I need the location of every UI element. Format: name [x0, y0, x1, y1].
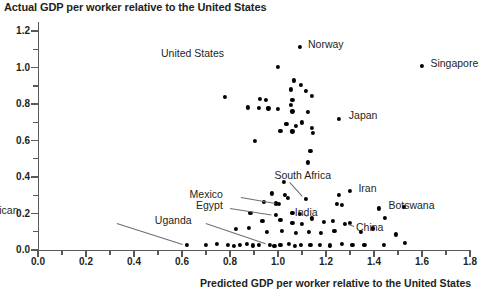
data-point — [245, 242, 249, 246]
data-point — [308, 148, 312, 152]
point-label: United States — [161, 47, 224, 59]
data-point — [292, 78, 296, 82]
leader-line — [349, 224, 355, 227]
leader-line — [289, 182, 303, 197]
data-point — [328, 243, 332, 247]
y-tick-minor — [33, 49, 38, 50]
x-tick-label: 0.8 — [210, 256, 250, 267]
data-point — [264, 97, 268, 101]
y-tick-label: 1.0 — [0, 62, 30, 73]
point-label: Japan — [349, 109, 378, 121]
data-point — [270, 191, 274, 195]
data-point — [226, 243, 230, 247]
data-point — [420, 64, 424, 68]
data-point — [234, 227, 238, 231]
data-point — [272, 244, 276, 248]
data-point — [343, 221, 347, 225]
leader-line — [117, 223, 183, 245]
data-point — [276, 107, 280, 111]
point-label: Botswana — [388, 199, 434, 211]
data-point — [304, 197, 308, 201]
y-tick-major — [31, 67, 38, 68]
data-point — [298, 45, 302, 49]
y-tick-minor — [33, 122, 38, 123]
point-label: Central African Republic — [0, 204, 42, 230]
x-tick-label: 0.2 — [66, 256, 106, 267]
x-tick-minor — [109, 250, 110, 255]
x-tick-label: 1.6 — [402, 256, 442, 267]
point-label: Egypt — [196, 199, 223, 211]
data-point — [258, 97, 262, 101]
point-label: Iran — [358, 182, 376, 194]
data-point — [300, 221, 304, 225]
data-point — [277, 202, 281, 206]
x-tick-minor — [301, 250, 302, 255]
data-point — [348, 189, 352, 193]
data-point — [362, 242, 366, 246]
point-label: Singapore — [430, 57, 478, 69]
x-tick-label: 1.0 — [258, 256, 298, 267]
x-tick-label: 0.6 — [162, 256, 202, 267]
data-point — [266, 106, 270, 110]
data-point — [307, 230, 311, 234]
data-point — [287, 242, 291, 246]
x-tick-minor — [349, 250, 350, 255]
data-point — [350, 243, 354, 247]
data-point — [280, 229, 284, 233]
data-point — [268, 242, 272, 246]
y-tick-major — [31, 103, 38, 104]
leader-line — [241, 197, 276, 204]
data-point — [318, 242, 322, 246]
x-tick-minor — [253, 250, 254, 255]
x-tick-minor — [445, 250, 446, 255]
data-point — [394, 232, 398, 236]
x-tick-label: 0.0 — [18, 256, 58, 267]
chart-title: Actual GDP per worker relative to the Un… — [4, 1, 266, 13]
data-point — [310, 126, 314, 130]
data-point — [276, 65, 280, 69]
y-tick-major — [31, 176, 38, 177]
data-point — [310, 94, 314, 98]
data-point — [332, 229, 336, 233]
x-tick-minor — [205, 250, 206, 255]
y-tick-label: 0.8 — [0, 98, 30, 109]
point-label: China — [356, 221, 383, 233]
data-point — [265, 230, 269, 234]
data-point — [335, 202, 339, 206]
data-point — [322, 220, 326, 224]
x-tick-label: 1.4 — [354, 256, 394, 267]
data-point — [278, 243, 282, 247]
data-point — [319, 231, 323, 235]
data-point — [308, 243, 312, 247]
point-label: South Africa — [274, 169, 331, 181]
data-point — [223, 95, 227, 99]
data-point — [294, 231, 298, 235]
data-point — [383, 215, 387, 219]
data-point — [306, 110, 310, 114]
data-point — [284, 122, 288, 126]
x-axis-label: Predicted GDP per worker relative to the… — [200, 277, 471, 289]
data-point — [403, 241, 407, 245]
x-tick-label: 1.8 — [450, 256, 483, 267]
y-tick-minor — [33, 85, 38, 86]
data-point — [232, 244, 236, 248]
y-tick-minor — [33, 195, 38, 196]
data-point — [238, 242, 242, 246]
data-point — [278, 128, 282, 132]
data-point — [299, 242, 303, 246]
data-point — [215, 242, 219, 246]
data-point — [257, 106, 261, 110]
data-point — [311, 131, 315, 135]
data-point — [274, 213, 278, 217]
data-point — [257, 242, 261, 246]
data-point — [290, 109, 294, 113]
data-point — [299, 83, 303, 87]
point-label: Uganda — [155, 214, 192, 226]
data-point — [289, 87, 293, 91]
y-tick-major — [31, 30, 38, 31]
data-point — [306, 160, 310, 164]
data-point — [185, 243, 189, 247]
y-tick-label: 0.4 — [0, 171, 30, 182]
data-point — [331, 219, 335, 223]
